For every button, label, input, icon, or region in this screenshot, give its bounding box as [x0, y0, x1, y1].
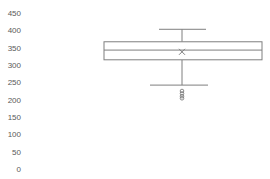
y-tick-label: 300 [8, 61, 22, 70]
y-tick-label: 250 [8, 78, 22, 87]
box-plot-chart: 050100150200250300350400450 [0, 0, 270, 179]
y-tick-label: 150 [8, 113, 22, 122]
y-tick-label: 50 [12, 148, 21, 157]
y-tick-label: 100 [8, 130, 22, 139]
y-tick-label: 450 [8, 9, 22, 18]
y-tick-label: 350 [8, 44, 22, 53]
y-tick-label: 400 [8, 26, 22, 35]
y-tick-label: 0 [17, 165, 22, 174]
y-axis: 050100150200250300350400450 [8, 9, 22, 174]
y-tick-label: 200 [8, 96, 22, 105]
plot-area [104, 29, 262, 100]
